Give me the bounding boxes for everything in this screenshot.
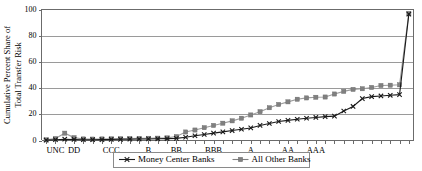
square-marker (314, 95, 318, 99)
y-axis-title-line1: Cumulative Percent Share of (2, 26, 12, 124)
square-marker (360, 87, 364, 91)
legend-label: All Other Banks (252, 154, 311, 164)
chart-legend: Money Center BanksAll Other Banks (114, 153, 311, 168)
square-marker (202, 126, 206, 130)
square-marker (332, 92, 336, 96)
y-axis-title-line2: Total Transfer Risk (13, 41, 23, 107)
square-marker (258, 110, 262, 114)
series-line (46, 14, 409, 140)
square-marker (221, 121, 225, 125)
y-tick-label: 40 (29, 83, 37, 92)
square-marker (388, 83, 392, 87)
square-marker (193, 128, 197, 132)
y-axis-title: Cumulative Percent Share of Total Transf… (2, 26, 23, 124)
y-axis-ticks: 020406080100 (25, 5, 42, 145)
square-marker (249, 113, 253, 117)
square-marker (370, 85, 374, 89)
x-axis-label: DD (68, 145, 80, 155)
series-all-other-banks (44, 11, 411, 142)
series-line (46, 13, 409, 139)
square-marker (267, 106, 271, 110)
square-marker (211, 123, 215, 127)
legend-square-marker (238, 157, 242, 161)
square-marker (286, 100, 290, 104)
square-marker (379, 83, 383, 87)
series-money-center-banks (44, 12, 411, 142)
y-tick-label: 100 (25, 5, 37, 14)
square-marker (230, 119, 234, 123)
square-marker (295, 97, 299, 101)
square-marker (323, 95, 327, 99)
square-marker (239, 116, 243, 120)
x-marker (342, 109, 346, 113)
square-marker (351, 87, 355, 91)
square-marker (277, 102, 281, 106)
y-tick-label: 0 (33, 136, 37, 145)
y-tick-label: 60 (29, 57, 37, 66)
y-tick-label: 80 (29, 31, 37, 40)
legend-label: Money Center Banks (138, 154, 215, 164)
cumulative-transfer-risk-chart: Cumulative Percent Share of Total Transf… (0, 0, 422, 171)
x-axis-label: UNC (46, 145, 64, 155)
square-marker (342, 89, 346, 93)
chart-container: Cumulative Percent Share of Total Transf… (0, 0, 422, 171)
x-marker (351, 104, 355, 108)
square-marker (63, 131, 67, 135)
y-tick-label: 20 (29, 109, 37, 118)
square-marker (184, 130, 188, 134)
square-marker (304, 96, 308, 100)
